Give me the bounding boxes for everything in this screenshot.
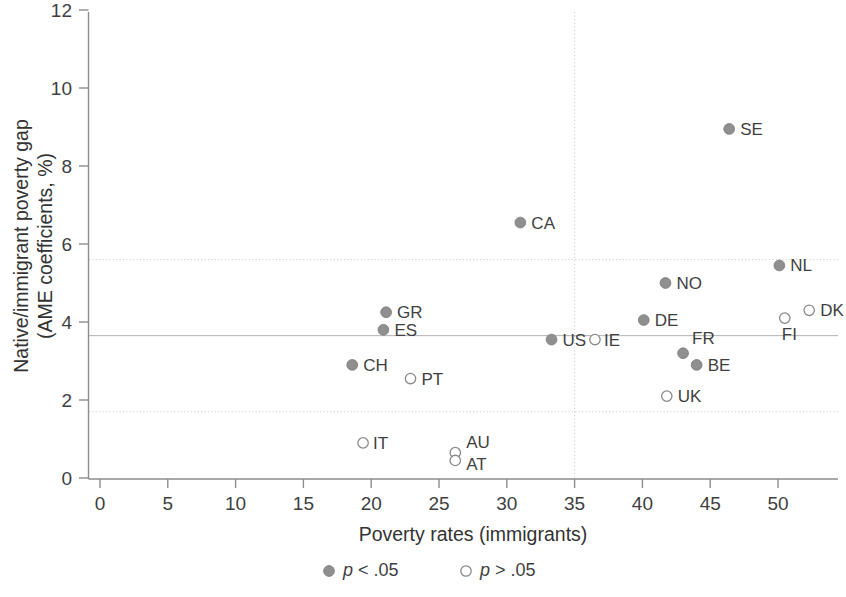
legend-entry-significant[interactable]: p < .05 <box>324 560 399 580</box>
data-point-label: NL <box>790 256 812 275</box>
y-axis-tick-label: 6 <box>61 234 72 255</box>
significant-marker-icon <box>347 360 358 371</box>
x-axis-title: Poverty rates (immigrants) <box>359 523 588 545</box>
data-point-be[interactable]: BE <box>691 356 730 375</box>
scatter-plot-figure: 02468101205101520253035404550 SECANLNOGR… <box>0 0 846 597</box>
y-axis-tick-label: 12 <box>51 0 72 21</box>
data-point-it[interactable]: IT <box>358 434 388 453</box>
x-axis-tick-label: 25 <box>428 493 449 514</box>
significant-marker-icon <box>381 307 392 318</box>
data-points-group: SECANLNOGRDKFIDEESUSIEFRBECHPTUKITAUAT <box>347 120 845 475</box>
data-point-ca[interactable]: CA <box>515 214 556 233</box>
significant-marker-icon <box>546 334 557 345</box>
data-point-label: BE <box>708 356 731 375</box>
axes-group <box>89 12 839 479</box>
data-point-us[interactable]: US <box>546 331 586 350</box>
x-axis-tick-label: 5 <box>163 493 174 514</box>
significant-marker-icon <box>678 348 689 359</box>
significant-marker-icon <box>378 324 389 335</box>
legend-label: p > .05 <box>479 560 536 580</box>
significant-marker-icon <box>691 360 702 371</box>
data-point-label: SE <box>740 120 763 139</box>
data-point-au[interactable]: AU <box>450 433 490 458</box>
data-point-se[interactable]: SE <box>724 120 763 139</box>
nonsignificant-marker-icon <box>461 566 471 576</box>
data-point-dk[interactable]: DK <box>804 301 844 320</box>
data-point-de[interactable]: DE <box>638 311 678 330</box>
axis-tick-labels-group: 02468101205101520253035404550 <box>51 0 789 514</box>
data-point-label: FI <box>782 325 797 344</box>
data-point-es[interactable]: ES <box>378 321 417 340</box>
x-axis-tick-label: 15 <box>293 493 314 514</box>
legend-label: p < .05 <box>342 560 399 580</box>
data-point-label: IE <box>604 331 620 350</box>
plot-canvas: 02468101205101520253035404550 SECANLNOGR… <box>0 0 846 597</box>
data-point-label: DE <box>655 311 679 330</box>
x-axis-tick-label: 35 <box>564 493 585 514</box>
data-point-label: ES <box>394 321 417 340</box>
x-axis-tick-label: 10 <box>225 493 246 514</box>
data-point-label: PT <box>422 370 444 389</box>
data-point-gr[interactable]: GR <box>381 303 423 322</box>
x-axis-tick-label: 20 <box>361 493 382 514</box>
data-point-uk[interactable]: UK <box>662 387 702 406</box>
x-axis-tick-label: 50 <box>767 493 788 514</box>
significant-marker-icon <box>774 260 785 271</box>
y-axis-tick-label: 8 <box>61 156 72 177</box>
data-point-label: AU <box>466 433 490 452</box>
legend-entry-nonsignificant[interactable]: p > .05 <box>461 560 536 580</box>
x-axis-tick-label: 30 <box>496 493 517 514</box>
nonsignificant-marker-icon <box>662 391 672 401</box>
y-axis-tick-label: 10 <box>51 78 72 99</box>
data-point-at[interactable]: AT <box>450 455 487 474</box>
nonsignificant-marker-icon <box>358 438 368 448</box>
y-axis-tick-label: 0 <box>61 468 72 489</box>
y-axis-title-line2: (AME coefficients, %) <box>34 153 56 339</box>
data-point-fi[interactable]: FI <box>780 313 797 344</box>
data-point-ie[interactable]: IE <box>590 331 620 350</box>
data-point-label: DK <box>820 301 844 320</box>
nonsignificant-marker-icon <box>405 373 415 383</box>
y-axis-title-line1: Native/immigrant poverty gap <box>10 119 32 373</box>
data-point-label: AT <box>466 455 486 474</box>
x-axis-tick-label: 0 <box>95 493 106 514</box>
significant-marker-icon <box>638 315 649 326</box>
reference-lines-group <box>89 12 838 478</box>
y-axis-tick-label: 2 <box>61 390 72 411</box>
data-point-label: UK <box>678 387 702 406</box>
nonsignificant-marker-icon <box>590 334 600 344</box>
data-point-pt[interactable]: PT <box>405 370 443 389</box>
significant-marker-icon <box>515 217 526 228</box>
data-point-label: CH <box>363 356 388 375</box>
axis-ticks-group <box>79 10 778 488</box>
significant-marker-icon <box>324 566 335 577</box>
data-point-label: GR <box>397 303 423 322</box>
y-axis-tick-label: 4 <box>61 312 72 333</box>
legend-group: p < .05p > .05 <box>324 560 536 580</box>
data-point-label: US <box>563 331 587 350</box>
nonsignificant-marker-icon <box>780 313 790 323</box>
data-point-label: CA <box>531 214 555 233</box>
nonsignificant-marker-icon <box>804 305 814 315</box>
data-point-no[interactable]: NO <box>660 274 702 293</box>
significant-marker-icon <box>724 124 735 135</box>
data-point-fr[interactable]: FR <box>678 329 715 358</box>
data-point-ch[interactable]: CH <box>347 356 388 375</box>
data-point-label: IT <box>373 434 388 453</box>
x-axis-tick-label: 40 <box>632 493 653 514</box>
significant-marker-icon <box>660 278 671 289</box>
x-axis-tick-label: 45 <box>700 493 721 514</box>
data-point-label: FR <box>692 329 715 348</box>
nonsignificant-marker-icon <box>450 455 460 465</box>
data-point-label: NO <box>676 274 702 293</box>
